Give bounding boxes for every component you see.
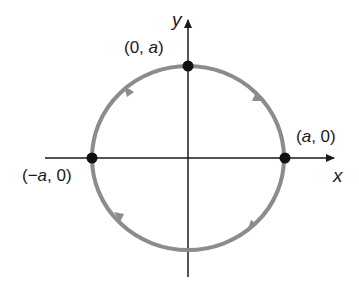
- point-left: [87, 153, 98, 164]
- point-right: [280, 153, 291, 164]
- label-top-point: (0, a): [124, 39, 164, 56]
- label-right-point: (a, 0): [296, 128, 336, 145]
- y-axis-label: y: [172, 10, 182, 29]
- point-top: [183, 61, 194, 72]
- label-left-point: (−a, 0): [22, 167, 72, 184]
- x-axis-label: x: [333, 166, 343, 185]
- diagram-svg: [0, 0, 359, 293]
- diagram-canvas: y x (0, a) (a, 0) (−a, 0): [0, 0, 359, 293]
